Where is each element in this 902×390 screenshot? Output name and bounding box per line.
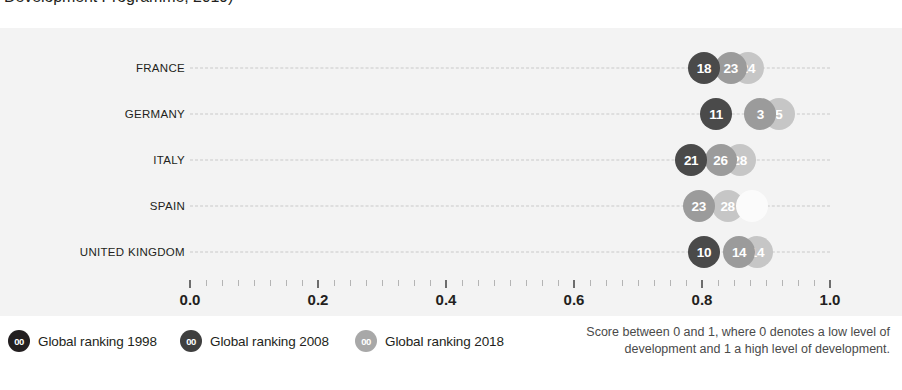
axis-tick-minor — [302, 280, 303, 286]
data-bubble-2008[interactable]: 3 — [744, 98, 776, 130]
axis-tick-minor — [382, 280, 383, 286]
legend-item-2[interactable]: 00Global ranking 2018 — [355, 330, 504, 352]
x-axis: 0.00.20.40.60.81.0 — [0, 280, 902, 316]
axis-tick-minor — [686, 280, 687, 286]
axis-tick-major — [317, 280, 319, 288]
axis-tick-minor — [670, 280, 671, 286]
row-label-spain: SPAIN — [150, 200, 185, 212]
axis-tick-label: 0.6 — [564, 291, 585, 308]
axis-tick-label: 1.0 — [820, 291, 841, 308]
chart-row: ITALY212628 — [0, 140, 902, 180]
data-bubble-1998[interactable]: 21 — [675, 144, 707, 176]
data-bubble-1998[interactable]: 18 — [688, 52, 720, 84]
axis-tick-minor — [350, 280, 351, 286]
axis-tick-minor — [782, 280, 783, 286]
axis-tick-minor — [622, 280, 623, 286]
axis-tick-minor — [766, 280, 767, 286]
axis-tick-major — [573, 280, 575, 288]
axis-tick-minor — [206, 280, 207, 286]
row-label-germany: GERMANY — [125, 108, 185, 120]
chart-row: SPAIN2328 — [0, 186, 902, 226]
data-bubble-2008[interactable]: 14 — [723, 236, 755, 268]
axis-tick-minor — [542, 280, 543, 286]
data-bubble-1998[interactable]: 11 — [700, 98, 732, 130]
axis-tick-label: 0.8 — [692, 291, 713, 308]
axis-tick-major — [189, 280, 191, 288]
axis-tick-minor — [238, 280, 239, 286]
axis-tick-minor — [654, 280, 655, 286]
page-title: Development Programme, 2019) — [4, 0, 233, 6]
axis-tick-major — [445, 280, 447, 288]
legend-marker-icon: 00 — [355, 330, 377, 352]
chart-row: UNITED KINGDOM101414 — [0, 232, 902, 272]
legend-label: Global ranking 2008 — [210, 334, 329, 349]
axis-tick-minor — [366, 280, 367, 286]
axis-tick-minor — [334, 280, 335, 286]
axis-tick-minor — [430, 280, 431, 286]
axis-tick-label: 0.0 — [180, 291, 201, 308]
axis-tick-minor — [718, 280, 719, 286]
axis-tick-label: 0.2 — [308, 291, 329, 308]
axis-tick-minor — [462, 280, 463, 286]
data-bubble-2008[interactable]: 26 — [705, 144, 737, 176]
chart-caption: Score between 0 and 1, where 0 denotes a… — [580, 324, 890, 358]
axis-tick-minor — [814, 280, 815, 286]
axis-tick-minor — [494, 280, 495, 286]
axis-tick-major — [701, 280, 703, 288]
data-bubble-1998[interactable]: 10 — [688, 236, 720, 268]
axis-tick-label: 0.4 — [436, 291, 457, 308]
legend-marker-icon: 00 — [8, 330, 30, 352]
row-label-united-kingdom: UNITED KINGDOM — [80, 246, 185, 258]
axis-tick-minor — [750, 280, 751, 286]
axis-tick-major — [829, 280, 831, 288]
chart-row: FRANCE182324 — [0, 48, 902, 88]
chart-plot-area: FRANCE182324GERMANY1135ITALY212628SPAIN2… — [0, 28, 902, 316]
row-label-italy: ITALY — [153, 154, 185, 166]
axis-tick-minor — [478, 280, 479, 286]
axis-tick-minor — [606, 280, 607, 286]
legend-label: Global ranking 1998 — [38, 334, 157, 349]
legend-marker-icon: 00 — [180, 330, 202, 352]
axis-tick-minor — [398, 280, 399, 286]
chart-title-strip: Development Programme, 2019) — [0, 0, 902, 26]
axis-tick-minor — [270, 280, 271, 286]
axis-tick-minor — [254, 280, 255, 286]
axis-tick-minor — [510, 280, 511, 286]
axis-tick-minor — [590, 280, 591, 286]
row-guideline — [190, 114, 830, 115]
chart-footer: Score between 0 and 1, where 0 denotes a… — [0, 316, 902, 390]
data-bubble-2018[interactable] — [736, 190, 768, 222]
chart-row: GERMANY1135 — [0, 94, 902, 134]
axis-tick-minor — [526, 280, 527, 286]
axis-tick-minor — [414, 280, 415, 286]
axis-tick-minor — [798, 280, 799, 286]
axis-tick-minor — [638, 280, 639, 286]
row-label-france: FRANCE — [136, 62, 185, 74]
legend-item-0[interactable]: 00Global ranking 1998 — [8, 330, 157, 352]
axis-tick-minor — [558, 280, 559, 286]
chart-plot-band: FRANCE182324GERMANY1135ITALY212628SPAIN2… — [0, 28, 902, 316]
legend-item-1[interactable]: 00Global ranking 2008 — [180, 330, 329, 352]
axis-tick-minor — [286, 280, 287, 286]
data-bubble-1998[interactable]: 23 — [683, 190, 715, 222]
axis-tick-minor — [734, 280, 735, 286]
legend-label: Global ranking 2018 — [385, 334, 504, 349]
axis-tick-minor — [222, 280, 223, 286]
